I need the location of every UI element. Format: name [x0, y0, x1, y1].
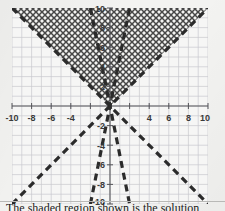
x-tick-label-8: 8 [186, 113, 191, 123]
y-tick-label--6: -6 [97, 160, 105, 170]
x-tick-label--10: -10 [5, 113, 18, 123]
x-tick-label--8: -8 [28, 113, 36, 123]
coordinate-plane-svg: -10 -8 -6 -4 4 6 8 10 10 8 6 4 2 -2 -4 -… [0, 0, 225, 211]
x-tick-label-10: 10 [200, 113, 210, 123]
x-tick-label-6: 6 [166, 113, 171, 123]
y-tick-label--8: -8 [97, 180, 105, 190]
graph-figure: -10 -8 -6 -4 4 6 8 10 10 8 6 4 2 -2 -4 -… [0, 0, 225, 211]
y-tick-label-4: 4 [100, 62, 105, 72]
y-tick-label-8: 8 [100, 23, 105, 33]
figure-caption: The shaded region shown is the solution [0, 202, 225, 211]
x-tick-label--4: -4 [67, 113, 75, 123]
y-tick-label--2: -2 [97, 121, 105, 131]
y-tick-label-10: 10 [95, 4, 105, 14]
y-tick-label--4: -4 [97, 141, 105, 151]
x-tick-label--6: -6 [47, 113, 55, 123]
y-tick-label-6: 6 [100, 43, 105, 53]
y-tick-label-2: 2 [100, 82, 105, 92]
x-tick-label-4: 4 [147, 113, 152, 123]
